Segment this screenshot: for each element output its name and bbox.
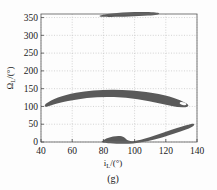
y-tick-label: 200 [24,66,39,76]
x-tick-label: 100 [127,146,142,156]
chart-svg: 0 50 100 150 200 250 300 350 40 60 80 10… [0,0,217,190]
y-tick-label: 150 [24,84,39,94]
x-tick-label: 80 [99,146,109,156]
x-tick-label: 60 [67,146,77,156]
x-axis-title: iL/(°) [104,158,123,169]
y-axis-unit: /(°) [5,67,15,79]
x-tick-label: 40 [36,146,46,156]
x-tick-label: 120 [159,146,174,156]
svg-text:ΩL/(°): ΩL/(°) [5,67,16,90]
y-tick-label: 50 [29,119,39,129]
x-axis-unit: /(°) [110,158,122,168]
y-axis-title: ΩL/(°) [5,67,16,90]
x-tick-labels: 40 60 80 100 120 140 [36,146,204,156]
y-tick-label: 250 [24,48,39,58]
y-tick-label: 350 [24,13,39,23]
figure-panel: 0 50 100 150 200 250 300 350 40 60 80 10… [0,0,217,190]
y-tick-label: 300 [24,31,39,41]
x-tick-label: 140 [190,146,205,156]
subfigure-caption: (g) [107,173,119,185]
y-tick-labels: 0 50 100 150 200 250 300 350 [24,13,39,147]
plot-background [41,14,197,142]
y-tick-label: 100 [24,102,39,112]
